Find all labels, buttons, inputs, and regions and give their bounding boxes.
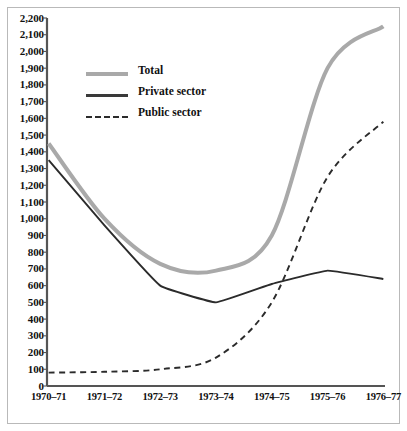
series-line-private-sector: [49, 160, 384, 302]
legend-item-private-sector: Private sector: [86, 85, 256, 106]
chart-legend: Total Private sector Public sector: [86, 64, 256, 127]
legend-item-total: Total: [86, 64, 256, 85]
x-tick-label: 1970–71: [31, 391, 66, 402]
x-tick-label: 1976–77: [366, 391, 401, 402]
legend-swatch-private-icon: [86, 94, 128, 97]
legend-swatch-total-icon: [86, 72, 128, 76]
legend-item-public-sector: Public sector: [86, 106, 256, 127]
series-line-public-sector: [49, 122, 384, 373]
x-tick-label: 1972–73: [143, 391, 178, 402]
x-tick-label: 1974–75: [254, 391, 289, 402]
x-tick-label: 1973–74: [198, 391, 233, 402]
chart-figure: 01002003004005006007008009001,0001,1001,…: [0, 0, 407, 431]
x-tick-label: 1971–72: [87, 391, 122, 402]
legend-label-public-sector: Public sector: [138, 106, 202, 118]
x-axis-tick-labels: 1970–711971–721972–731973–741974–751975–…: [0, 391, 407, 411]
x-tick-label: 1975–76: [310, 391, 345, 402]
legend-label-private-sector: Private sector: [138, 85, 206, 97]
legend-label-total: Total: [138, 64, 163, 76]
legend-swatch-public-icon: [86, 116, 128, 118]
